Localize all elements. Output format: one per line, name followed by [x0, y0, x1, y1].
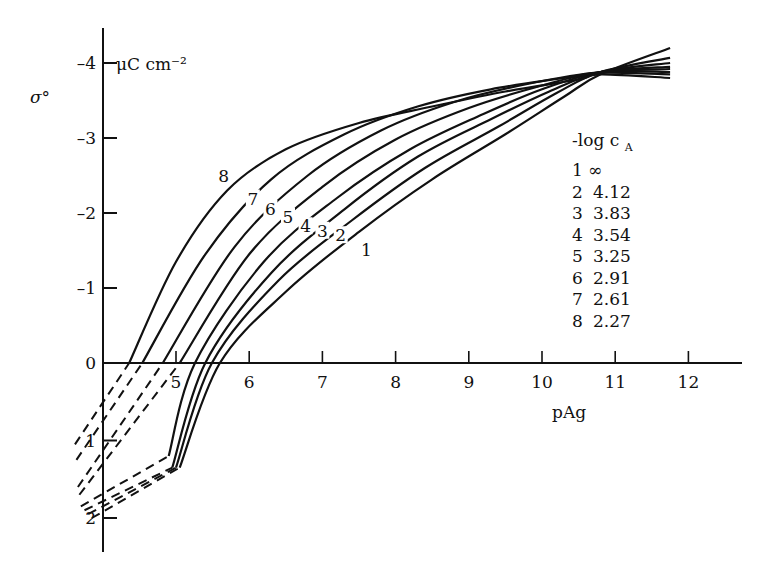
x-tick-label: 9: [463, 372, 474, 392]
legend: -log c A 1∞24.1233.8343.5453.2562.9172.6…: [572, 130, 634, 331]
legend-row-value: ∞: [588, 160, 602, 180]
y-tick-label: –1: [77, 278, 96, 298]
x-axis-label: pAg: [552, 402, 586, 422]
chart-canvas: –4–3–2–1012 56789101112 12345678 σ° μC c…: [0, 0, 777, 573]
axes: [103, 28, 742, 552]
curve-label-1: 1: [361, 240, 372, 260]
y-tick-label: –2: [77, 203, 96, 223]
curve-label-4: 4: [300, 216, 311, 236]
x-ticks: 56789101112: [171, 351, 700, 392]
legend-row-id: 1: [572, 160, 583, 180]
legend-row-id: 7: [572, 289, 583, 309]
legend-row-value: 3.83: [593, 203, 631, 223]
curve-label-6: 6: [265, 199, 276, 219]
curve-labels: 12345678: [217, 166, 374, 260]
x-tick-label: 7: [317, 372, 328, 392]
legend-row-id: 4: [572, 225, 583, 245]
y-tick-label: 0: [85, 353, 96, 373]
curve-label-3: 3: [317, 221, 328, 241]
curve-label-2: 2: [335, 225, 346, 245]
x-tick-label: 6: [244, 372, 255, 392]
legend-row-id: 5: [572, 246, 583, 266]
legend-row-id: 8: [572, 311, 583, 331]
x-tick-label: 5: [171, 372, 182, 392]
y-axis-unit: μC cm⁻²: [116, 54, 187, 74]
legend-row-id: 3: [572, 203, 583, 223]
legend-title-main: -log c: [572, 130, 619, 150]
curve-2-extrapolation: [88, 468, 176, 515]
curve-7-extrapolation: [76, 363, 142, 460]
y-tick-label: –4: [77, 53, 96, 73]
x-tick-label: 8: [390, 372, 401, 392]
y-axis-label: σ°: [30, 87, 50, 107]
legend-row-value: 2.91: [593, 268, 631, 288]
legend-title-sub: A: [624, 141, 634, 154]
legend-row-value: 2.61: [593, 289, 631, 309]
curve-label-8: 8: [218, 166, 229, 186]
legend-row-id: 6: [572, 268, 583, 288]
legend-row-value: 2.27: [593, 311, 631, 331]
x-tick-label: 11: [604, 372, 626, 392]
legend-row-id: 2: [572, 182, 583, 202]
x-tick-label: 10: [531, 372, 553, 392]
legend-title: -log c A: [572, 130, 634, 154]
legend-rows: 1∞24.1233.8343.5453.2562.9172.6182.27: [572, 160, 631, 331]
curve-3-extrapolation: [85, 468, 173, 511]
curve-8: [129, 74, 670, 363]
y-ticks: –4–3–2–1012: [77, 53, 117, 528]
legend-row-value: 4.12: [593, 182, 631, 202]
y-tick-label: –3: [77, 128, 96, 148]
legend-row-value: 3.54: [593, 225, 631, 245]
curve-label-5: 5: [283, 207, 294, 227]
legend-row-value: 3.25: [593, 246, 631, 266]
curve-6-extrapolation: [78, 363, 163, 487]
x-tick-label: 12: [678, 372, 700, 392]
curve-label-7: 7: [247, 189, 258, 209]
